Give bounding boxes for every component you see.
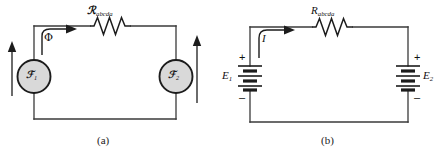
battery-e1-subscript: 1 xyxy=(229,75,232,82)
battery-e1-plates xyxy=(238,66,262,90)
battery-e2-subscript: 2 xyxy=(430,75,433,82)
resistor-zigzag xyxy=(90,18,131,35)
mmf-source-2-label: ℱ2 xyxy=(168,70,179,80)
battery-e2-label: E2 xyxy=(423,70,433,81)
battery-e1-plus: + xyxy=(239,52,245,63)
caption-a: (a) xyxy=(97,135,109,146)
caption-b: (b) xyxy=(321,135,334,146)
resistor-subscript-a: abcda xyxy=(96,10,113,17)
resistor-symbol-a: ℛ xyxy=(87,4,96,17)
panel-a-magnetic-circuit: ℛabcda Φ ℱ1 ℱ2 (a) xyxy=(0,0,220,155)
current-label: I xyxy=(262,33,266,44)
resistor-label-a: ℛabcda xyxy=(87,5,113,16)
battery-e2-symbol: E xyxy=(423,69,430,81)
flux-arrow-left xyxy=(8,41,16,96)
panel-b-drawing xyxy=(220,0,440,155)
mmf-source-1-symbol: ℱ xyxy=(26,69,34,80)
mmf-source-1-label: ℱ1 xyxy=(26,70,37,80)
flux-label: Φ xyxy=(44,32,53,43)
battery-e1-symbol: E xyxy=(222,69,229,81)
battery-e2-minus: – xyxy=(414,92,420,103)
resistor-symbol-b: R xyxy=(311,4,318,16)
battery-e2-plus: + xyxy=(414,52,420,63)
panel-b-electric-circuit: Rabcda I E1 + – E2 + – (b) xyxy=(220,0,440,155)
flux-arrow-right xyxy=(193,35,201,103)
resistor-subscript-b: abcda xyxy=(318,10,335,17)
mmf-source-1-subscript: 1 xyxy=(34,74,37,81)
mmf-source-2-subscript: 2 xyxy=(176,74,179,81)
resistor-label-b: Rabcda xyxy=(311,5,334,16)
resistor-zigzag-b xyxy=(312,19,353,36)
battery-e1-label: E1 xyxy=(222,70,232,81)
mmf-source-2-symbol: ℱ xyxy=(168,69,176,80)
battery-e1-minus: – xyxy=(239,92,245,103)
battery-e2-plates xyxy=(396,66,420,90)
figure-root: ℛabcda Φ ℱ1 ℱ2 (a) xyxy=(0,0,440,155)
